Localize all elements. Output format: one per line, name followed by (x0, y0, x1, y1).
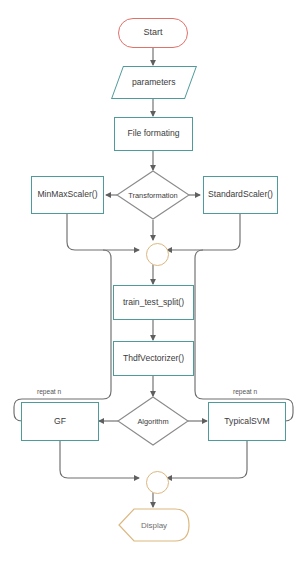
node-standardscaler-label: StandardScaler() (208, 190, 273, 199)
node-gf[interactable]: GF (21, 402, 99, 441)
edge-label-repeat-left: repeat n (36, 388, 62, 395)
edge-gf-to-endjunction (60, 441, 139, 478)
node-vectorizer[interactable]: ThdfVectorizer() (113, 341, 194, 376)
node-typicalsvm-label: TypicalSVM (224, 417, 269, 426)
node-parameters[interactable]: parameters (111, 66, 197, 99)
node-start-label: Start (143, 28, 162, 37)
edge-label-repeat-right: repeat n (232, 388, 258, 395)
node-merge-junction[interactable] (146, 243, 169, 266)
node-algorithm[interactable]: Algorithm (117, 396, 189, 446)
node-transformation[interactable]: Transformation (116, 170, 190, 220)
node-parameters-label: parameters (132, 78, 175, 87)
node-minmaxscaler-label: MinMaxScaler() (37, 190, 97, 199)
node-start[interactable]: Start (118, 18, 188, 48)
node-display-label: Display (118, 508, 190, 542)
node-typicalsvm[interactable]: TypicalSVM (208, 402, 286, 441)
node-end-junction[interactable] (146, 471, 169, 494)
node-train-test-split-label: train_test_split() (123, 298, 184, 307)
node-display[interactable]: Display (118, 508, 190, 542)
node-file-formating[interactable]: File formating (114, 117, 193, 151)
node-standardscaler[interactable]: StandardScaler() (203, 176, 278, 214)
flowchart-canvas: Start parameters File formating Transfor… (0, 0, 307, 563)
node-transformation-label: Transformation (116, 170, 190, 220)
edge-typicalsvm-to-endjunction (167, 441, 247, 478)
node-minmaxscaler[interactable]: MinMaxScaler() (31, 176, 104, 214)
edge-repeat-left-loop (14, 250, 111, 421)
node-algorithm-label: Algorithm (117, 396, 189, 446)
node-file-formating-label: File formating (127, 129, 179, 138)
edge-repeat-right-loop (195, 250, 293, 421)
node-gf-label: GF (54, 417, 66, 426)
node-vectorizer-label: ThdfVectorizer() (123, 354, 184, 363)
node-train-test-split[interactable]: train_test_split() (113, 285, 194, 320)
